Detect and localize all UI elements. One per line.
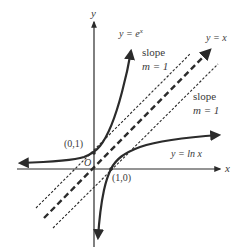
y-axis-label: y: [91, 8, 96, 19]
exp-label-prefix: y = e: [119, 28, 140, 39]
tangent-ln-label-line1: slope: [193, 91, 216, 102]
point-0-1-dot: [92, 151, 96, 155]
tangent-line-exp: [36, 54, 190, 208]
exp-curve-label: y = ex: [119, 28, 143, 39]
tangent-exp-label-line1: slope: [142, 47, 165, 58]
origin-label: O: [84, 158, 91, 168]
x-axis-label: x: [225, 163, 230, 174]
point-0-1-label: (0,1): [64, 139, 83, 149]
point-1-0-label: (1,0): [112, 173, 131, 183]
identity-line-label: y = x: [206, 33, 227, 43]
tangent-exp-label-line2: m = 1: [142, 61, 168, 72]
diagram-root: y x O y = ex y = x y = ln x slope m = 1 …: [0, 0, 245, 247]
exp-label-exponent: x: [140, 27, 143, 35]
tangent-ln-label-line2: m = 1: [193, 105, 219, 116]
ln-curve-label: y = ln x: [171, 149, 202, 159]
point-1-0-dot: [109, 167, 113, 171]
